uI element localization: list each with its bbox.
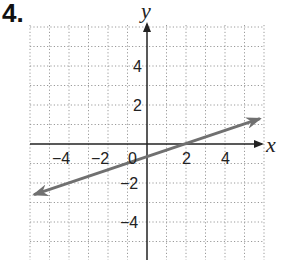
x-tick-label: −2 — [91, 150, 109, 167]
y-tick-label: 4 — [133, 58, 142, 75]
x-tick-label: 2 — [182, 150, 191, 167]
coordinate-graph: x y −4 −2 0 2 4 4 2 −2 −4 — [0, 0, 281, 260]
y-axis-label: y — [139, 0, 151, 23]
x-tick-label: 4 — [221, 150, 230, 167]
x-tick-label: 0 — [128, 150, 137, 167]
x-axis-label: x — [265, 132, 276, 157]
y-tick-label: −2 — [120, 175, 138, 192]
x-tick-label: −4 — [52, 150, 70, 167]
y-tick-label: −4 — [120, 214, 138, 231]
y-tick-label: 2 — [133, 97, 142, 114]
